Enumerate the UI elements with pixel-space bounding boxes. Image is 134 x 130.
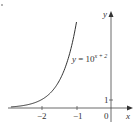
y-tick-label-1: 1 bbox=[104, 95, 109, 105]
x-tick-label-neg1: −1 bbox=[73, 111, 83, 121]
origin-label: 0 bbox=[104, 111, 109, 121]
y-axis-label: y bbox=[102, 9, 107, 19]
exponential-plot: −2 −1 0 1 x y y = 10x + 2 bbox=[0, 0, 134, 130]
x-axis-arrow-icon bbox=[127, 106, 133, 111]
x-axis-label: x bbox=[125, 111, 130, 121]
equation-label: y = 10x + 2 bbox=[71, 53, 107, 64]
y-axis-arrow-icon bbox=[109, 11, 114, 17]
exponential-curve bbox=[11, 22, 77, 107]
equation-exponent: x + 2 bbox=[94, 53, 108, 59]
x-tick-label-neg2: −2 bbox=[37, 111, 47, 121]
stray-dot bbox=[1, 4, 3, 6]
